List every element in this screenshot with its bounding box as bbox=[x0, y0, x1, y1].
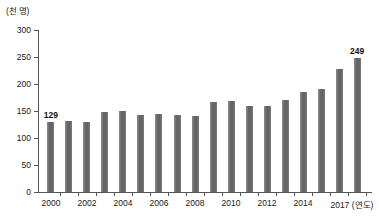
x-axis-tick-mark bbox=[78, 192, 79, 196]
x-axis-tick-mark bbox=[366, 192, 367, 196]
bar bbox=[300, 92, 307, 192]
y-axis-tick-mark bbox=[34, 138, 38, 139]
x-axis-tick-label: 2012 bbox=[258, 198, 277, 208]
x-axis-tick-mark bbox=[312, 192, 313, 196]
x-axis-tick-mark bbox=[150, 192, 151, 196]
bar bbox=[246, 106, 253, 192]
x-axis-tick-mark bbox=[330, 192, 331, 196]
x-axis-tick-mark bbox=[60, 192, 61, 196]
x-axis-tick-label: 2000 bbox=[41, 198, 60, 208]
x-axis-tick-mark bbox=[294, 192, 295, 196]
x-axis-tick-mark bbox=[348, 192, 349, 196]
x-axis-tick-mark bbox=[240, 192, 241, 196]
y-axis-tick-label: 0 bbox=[26, 187, 31, 197]
x-axis-tick-mark bbox=[168, 192, 169, 196]
y-axis-tick-label: 250 bbox=[17, 52, 31, 62]
x-axis-tick-label: 2014 bbox=[294, 198, 313, 208]
bar: 249 bbox=[354, 58, 361, 192]
x-axis-tick-mark bbox=[258, 192, 259, 196]
bar bbox=[137, 115, 144, 192]
x-axis-tick-mark bbox=[204, 192, 205, 196]
x-axis-tick-label: 2010 bbox=[222, 198, 241, 208]
bar bbox=[119, 111, 126, 192]
plot-area: 300250200150100500 129249 20002002200420… bbox=[38, 30, 372, 192]
y-axis-tick-mark bbox=[34, 57, 38, 58]
y-axis-tick-mark bbox=[34, 84, 38, 85]
y-axis-unit-caption: (천 명) bbox=[6, 4, 29, 16]
x-axis-tick-mark bbox=[276, 192, 277, 196]
chart-page: (천 명) 300250200150100500 129249 20002002… bbox=[0, 0, 379, 222]
bar-value-label: 249 bbox=[350, 46, 364, 56]
bar bbox=[210, 102, 217, 192]
y-axis-tick-mark bbox=[34, 30, 38, 31]
bar bbox=[264, 106, 271, 192]
bar bbox=[228, 101, 235, 192]
bar bbox=[174, 115, 181, 192]
x-axis-tick-mark bbox=[132, 192, 133, 196]
y-axis-tick-label: 150 bbox=[17, 106, 31, 116]
bar bbox=[65, 121, 72, 192]
x-axis-tick-mark bbox=[186, 192, 187, 196]
y-axis-tick-label: 200 bbox=[17, 79, 31, 89]
y-axis-tick-label: 100 bbox=[17, 133, 31, 143]
y-axis-tick-mark bbox=[34, 111, 38, 112]
x-axis-tick-mark bbox=[222, 192, 223, 196]
bar bbox=[101, 112, 108, 192]
y-axis-tick-label: 50 bbox=[22, 160, 31, 170]
bar bbox=[83, 122, 90, 192]
x-axis-tick-label: 2006 bbox=[150, 198, 169, 208]
x-axis-tick-label: 2004 bbox=[114, 198, 133, 208]
x-axis-tick-mark bbox=[114, 192, 115, 196]
bar bbox=[336, 69, 343, 192]
bar bbox=[155, 114, 162, 192]
x-axis-tick-mark bbox=[96, 192, 97, 196]
y-axis-line bbox=[38, 30, 39, 192]
bar bbox=[318, 89, 325, 192]
x-axis-tick-label: 2002 bbox=[78, 198, 97, 208]
bar bbox=[282, 100, 289, 192]
x-axis-line bbox=[38, 192, 372, 193]
bar: 129 bbox=[47, 122, 54, 192]
x-axis-tick-label: 2017 (연도) bbox=[330, 198, 373, 210]
y-axis-tick-mark bbox=[34, 192, 38, 193]
y-axis-tick-mark bbox=[34, 165, 38, 166]
y-axis-tick-label: 300 bbox=[17, 25, 31, 35]
bar bbox=[192, 116, 199, 192]
x-axis-tick-label: 2008 bbox=[186, 198, 205, 208]
bar-value-label: 129 bbox=[44, 110, 58, 120]
